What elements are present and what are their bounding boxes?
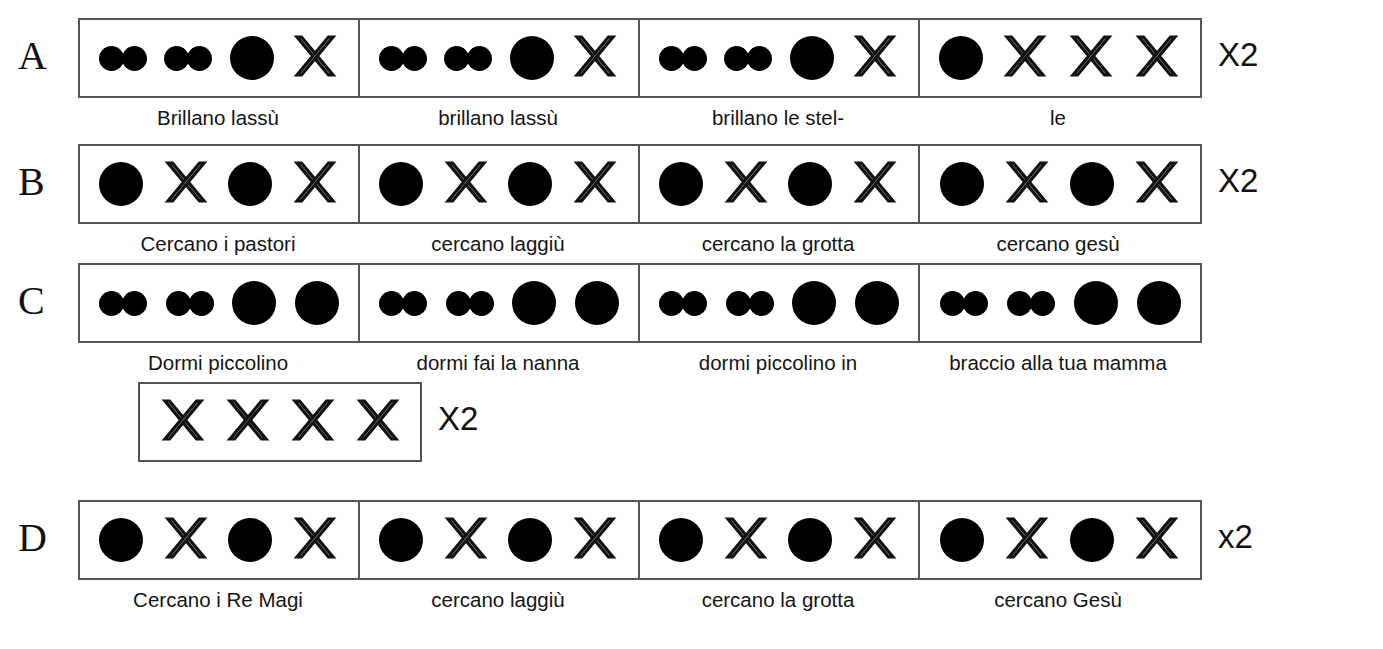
staff-line-c: CDormi piccolinodormi fai la nannadormi … <box>18 263 1218 375</box>
dot-pair-icon <box>1007 291 1055 316</box>
rest-cross-icon <box>1133 516 1181 564</box>
big-dot-icon <box>230 36 274 80</box>
eighth-note-pair-icon <box>99 291 147 316</box>
measure[interactable] <box>140 384 420 460</box>
measure[interactable] <box>920 20 1200 96</box>
cross-icon <box>571 516 619 564</box>
quarter-note-dot-icon <box>940 518 984 562</box>
eighth-note-pair-icon <box>726 291 774 316</box>
rest-cross-icon <box>442 160 490 208</box>
measure[interactable] <box>80 502 360 578</box>
eighth-note-pair-icon <box>940 291 988 316</box>
small-dot-icon <box>747 46 772 71</box>
quarter-note-dot-icon <box>508 162 552 206</box>
cross-icon <box>1003 160 1051 208</box>
big-dot-icon <box>228 162 272 206</box>
big-dot-icon <box>232 281 276 325</box>
staff-letter-label: D <box>18 500 78 558</box>
measure-lyric-caption: cercano laggiù <box>358 580 638 612</box>
rest-cross-icon <box>851 160 899 208</box>
measures-column: Cercano i pastoricercano laggiùcercano l… <box>78 144 1202 256</box>
measures-column: Brillano lassùbrillano lassùbrillano le … <box>78 18 1202 130</box>
measure[interactable] <box>640 146 920 222</box>
measure[interactable] <box>640 265 920 341</box>
rest-cross-icon <box>571 34 619 82</box>
big-dot-icon <box>228 518 272 562</box>
measure-row <box>78 263 1202 343</box>
big-dot-icon <box>512 281 556 325</box>
quarter-note-dot-icon <box>790 36 834 80</box>
cross-icon <box>1133 160 1181 208</box>
quarter-note-dot-icon <box>230 36 274 80</box>
quarter-note-dot-icon <box>788 162 832 206</box>
eighth-note-pair-icon <box>99 46 147 71</box>
rest-cross-icon <box>722 516 770 564</box>
big-dot-icon <box>1070 162 1114 206</box>
rest-cross-icon <box>571 160 619 208</box>
eighth-note-pair-icon <box>724 46 772 71</box>
measure[interactable] <box>920 265 1200 341</box>
caption-row: Cercano i pastoricercano laggiùcercano l… <box>78 224 1202 256</box>
quarter-note-dot-icon <box>855 281 899 325</box>
measure[interactable] <box>360 265 640 341</box>
small-dot-icon <box>402 291 427 316</box>
big-dot-icon <box>940 162 984 206</box>
measure[interactable] <box>80 265 360 341</box>
measure-lyric-caption: dormi piccolino in <box>638 343 918 375</box>
eighth-note-pair-icon <box>444 46 492 71</box>
big-dot-icon <box>99 162 143 206</box>
dot-pair-icon <box>166 291 214 316</box>
big-dot-icon <box>508 518 552 562</box>
eighth-note-pair-icon <box>1007 291 1055 316</box>
measure-lyric-caption: cercano la grotta <box>638 580 918 612</box>
measure[interactable] <box>920 502 1200 578</box>
eighth-note-pair-icon <box>659 291 707 316</box>
small-dot-icon <box>379 291 404 316</box>
big-dot-icon <box>659 162 703 206</box>
quarter-note-dot-icon <box>659 162 703 206</box>
cross-icon <box>1133 516 1181 564</box>
cross-icon <box>442 160 490 208</box>
cross-icon <box>291 34 339 82</box>
quarter-note-dot-icon <box>510 36 554 80</box>
cross-icon <box>289 398 337 446</box>
quarter-note-dot-icon <box>99 162 143 206</box>
big-dot-icon <box>510 36 554 80</box>
measure[interactable] <box>640 20 920 96</box>
big-dot-icon <box>788 162 832 206</box>
cross-icon <box>722 516 770 564</box>
measure-row <box>78 500 1202 580</box>
staff-letter-label: B <box>18 144 78 202</box>
quarter-note-dot-icon <box>575 281 619 325</box>
small-dot-icon <box>659 291 684 316</box>
cross-icon <box>162 160 210 208</box>
dot-pair-icon <box>164 46 212 71</box>
measure[interactable] <box>920 146 1200 222</box>
measure[interactable] <box>360 146 640 222</box>
dot-pair-icon <box>99 291 147 316</box>
small-dot-icon <box>749 291 774 316</box>
measure[interactable] <box>360 502 640 578</box>
measure-lyric-caption: Cercano i pastori <box>78 224 358 256</box>
small-dot-icon <box>166 291 191 316</box>
cross-icon <box>1067 34 1115 82</box>
measure-lyric-caption: cercano gesù <box>918 224 1198 256</box>
big-dot-icon <box>788 518 832 562</box>
measure[interactable] <box>640 502 920 578</box>
measure[interactable] <box>80 20 360 96</box>
quarter-note-dot-icon <box>512 281 556 325</box>
measure[interactable] <box>80 146 360 222</box>
cross-icon <box>291 160 339 208</box>
cross-icon <box>571 160 619 208</box>
quarter-note-dot-icon <box>228 518 272 562</box>
quarter-note-dot-icon <box>1074 281 1118 325</box>
staff-line-a: ABrillano lassùbrillano lassùbrillano le… <box>18 18 1258 130</box>
cross-icon <box>1001 34 1049 82</box>
small-dot-icon <box>682 46 707 71</box>
dot-pair-icon <box>379 46 427 71</box>
small-dot-icon <box>444 46 469 71</box>
big-dot-icon <box>659 518 703 562</box>
measure[interactable] <box>360 20 640 96</box>
quarter-note-dot-icon <box>1070 518 1114 562</box>
rest-cross-icon <box>1067 34 1115 82</box>
